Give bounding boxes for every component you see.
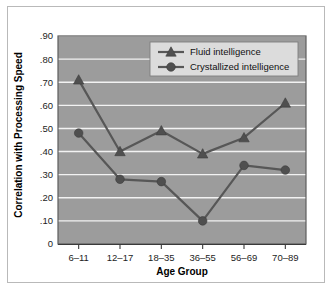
y-axis-tick-label: .10 — [40, 215, 53, 226]
y-axis-tick-labels: .90.80.70.60.50.40.30.20.100 — [40, 30, 53, 249]
x-axis-tick-label: 56–69 — [231, 252, 257, 263]
legend-label: Fluid intelligence — [190, 46, 261, 57]
x-axis-tick-label: 36–55 — [189, 252, 215, 263]
data-point-marker — [116, 175, 125, 184]
chart-figure: Correlation with Processing Speed .90.80… — [7, 6, 325, 283]
x-axis-tick-label: 70–89 — [272, 252, 298, 263]
y-axis-tick-label: .50 — [40, 123, 53, 134]
correlation-line-chart: Correlation with Processing Speed .90.80… — [8, 7, 324, 282]
x-axis-tick-label: 6–11 — [68, 252, 88, 263]
y-axis-tick-label: .20 — [40, 192, 53, 203]
data-point-marker — [198, 217, 207, 226]
data-point-marker — [157, 177, 166, 186]
y-axis-tick-label: .40 — [40, 146, 53, 157]
data-point-marker — [74, 129, 83, 138]
y-axis-title: Correlation with Processing Speed — [13, 52, 24, 218]
y-axis-tick-label: 0 — [48, 238, 53, 249]
y-axis-tick-label: .70 — [40, 77, 53, 88]
y-axis-tick-label: .30 — [40, 169, 53, 180]
data-point-marker — [281, 166, 290, 175]
x-axis-tick-label: 12–17 — [107, 252, 133, 263]
legend-label: Crystallized intelligence — [190, 61, 289, 72]
y-axis-tick-label: .60 — [40, 100, 53, 111]
x-axis-title: Age Group — [156, 266, 208, 277]
y-axis-tick-label: .90 — [40, 30, 53, 41]
legend-swatch-marker — [167, 63, 176, 72]
x-axis-tick-labels: 6–1112–1718–3536–5556–6970–89 — [68, 252, 298, 263]
data-point-marker — [240, 161, 249, 170]
chart-legend: Fluid intelligenceCrystallized intellige… — [150, 42, 298, 76]
y-axis-tick-label: .80 — [40, 54, 53, 65]
x-axis-tick-label: 18–35 — [148, 252, 174, 263]
